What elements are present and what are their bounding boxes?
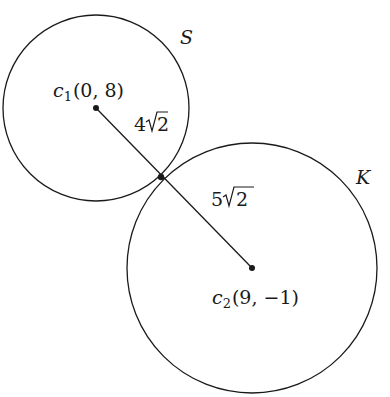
radius-s-radicand: 2: [157, 113, 169, 135]
center-point-c2: [249, 265, 255, 271]
diagram-svg: S K c1(0, 8) c2(9, −1) 4 2 5 2: [0, 0, 390, 397]
center-c2-label: c2(9, −1): [212, 286, 299, 311]
center-c1-label: c1(0, 8): [53, 79, 124, 104]
circle-s-label: S: [180, 26, 193, 48]
center-connecting-segment: [96, 108, 252, 268]
c2-subscript: 2: [223, 296, 231, 311]
circle-k-label: K: [355, 166, 372, 188]
radius-k-label: 5 2: [211, 187, 254, 210]
radius-k-radicand: 2: [236, 188, 248, 210]
c1-coords: (0, 8): [73, 79, 124, 101]
c2-coords: (9, −1): [232, 286, 299, 308]
center-point-c1: [93, 105, 99, 111]
c1-symbol: c: [53, 79, 64, 101]
radius-s-label: 4 2: [134, 112, 169, 135]
radius-k-coef: 5: [211, 188, 223, 210]
c1-subscript: 1: [64, 89, 72, 104]
c2-symbol: c: [212, 286, 223, 308]
tangent-point: [158, 174, 164, 180]
tangent-circles-diagram: S K c1(0, 8) c2(9, −1) 4 2 5 2: [0, 0, 390, 397]
radius-s-coef: 4: [134, 113, 146, 135]
